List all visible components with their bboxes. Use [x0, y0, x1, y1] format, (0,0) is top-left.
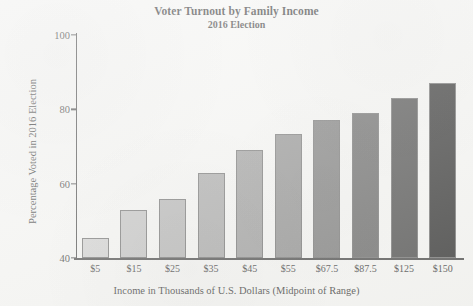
bar — [391, 98, 418, 258]
y-tick-mark — [71, 257, 76, 258]
y-tick-mark — [71, 183, 76, 184]
chart-subtitle: 2016 Election — [0, 18, 473, 31]
y-axis-line — [76, 33, 77, 260]
x-axis-title: Income in Thousands of U.S. Dollars (Mid… — [0, 285, 473, 296]
y-tick-label: 40 — [60, 253, 71, 264]
x-tick-label: $45 — [242, 263, 257, 274]
plot-area — [76, 35, 462, 258]
bar — [159, 199, 186, 258]
bar — [352, 113, 379, 258]
bar — [313, 120, 340, 258]
y-tick-label: 100 — [54, 30, 70, 41]
y-tick-label: 60 — [60, 178, 71, 189]
x-tick-label: $67.5 — [316, 263, 339, 274]
y-tick-label: 80 — [60, 104, 71, 115]
x-tick-label: $15 — [126, 263, 141, 274]
bar — [429, 83, 456, 258]
bar — [198, 173, 225, 258]
x-tick-label: $150 — [433, 263, 453, 274]
chart-title: Voter Turnout by Family Income — [0, 4, 473, 18]
y-axis-title: Percentage Voted in 2016 Election — [27, 47, 38, 257]
x-tick-label: $35 — [204, 263, 219, 274]
x-tick-label: $87.5 — [354, 263, 377, 274]
bar — [120, 210, 147, 258]
title-block: Voter Turnout by Family Income 2016 Elec… — [0, 4, 473, 31]
x-tick-label: $125 — [394, 263, 414, 274]
x-axis-line — [74, 258, 464, 260]
x-tick-label: $55 — [281, 263, 296, 274]
bar — [275, 134, 302, 259]
x-tick-label: $25 — [165, 263, 180, 274]
chart-figure: Voter Turnout by Family Income 2016 Elec… — [0, 0, 473, 306]
y-tick-mark — [71, 109, 76, 110]
bar — [82, 238, 109, 258]
y-axis-tick-labels: 406080100 — [36, 0, 70, 306]
bar — [236, 150, 263, 258]
x-tick-label: $5 — [90, 263, 100, 274]
y-tick-mark — [71, 34, 76, 35]
